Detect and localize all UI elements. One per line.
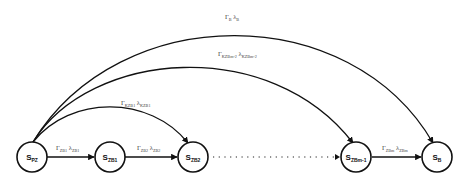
- label-edge-pz-b: ΓB λB: [225, 13, 239, 22]
- node-s-zbm-1: SZBm-1: [341, 142, 371, 172]
- label-edge-pz-zbm-1: ΓKZBm-2 λKZBm-2: [218, 50, 257, 59]
- edge-pz-to-zb2: [33, 107, 188, 143]
- label-edge-zbm-1-b: ΓZBm λZBm: [382, 144, 409, 153]
- node-s-pz: SPZ: [17, 142, 47, 172]
- node-s-zb1: SZB1: [95, 142, 125, 172]
- state-transition-diagram: ΓZB1 λZB1 ΓZB2 λZB2 ΓZBm λZBm ΓKZB1 λKZB…: [0, 0, 469, 185]
- node-s-b: SB: [422, 142, 452, 172]
- label-edge-pz-zb1: ΓZB1 λZB1: [56, 144, 79, 153]
- edge-pz-to-zbm-1: [33, 67, 353, 143]
- label-edge-zb1-zb2: ΓZB2 λZB2: [137, 144, 160, 153]
- node-s-zb2: SZB2: [178, 142, 208, 172]
- arrowhead-dotted-icon: [335, 154, 340, 160]
- label-edge-pz-zb2: ΓKZB1 λKZB1: [121, 99, 150, 108]
